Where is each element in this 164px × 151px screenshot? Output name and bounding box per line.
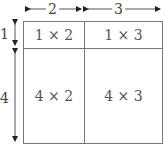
cell-4x3: 4 × 3 bbox=[85, 49, 162, 143]
left-dimension-label-1: 1 bbox=[0, 27, 9, 41]
top-dimension-label-2: 2 bbox=[46, 2, 59, 16]
cell-1x2: 1 × 2 bbox=[24, 22, 84, 48]
cell-1x3: 1 × 3 bbox=[85, 22, 162, 48]
cell-4x2: 4 × 2 bbox=[24, 49, 84, 143]
left-dimension-label-4: 4 bbox=[0, 91, 9, 105]
top-dimension-label-3: 3 bbox=[112, 2, 125, 16]
